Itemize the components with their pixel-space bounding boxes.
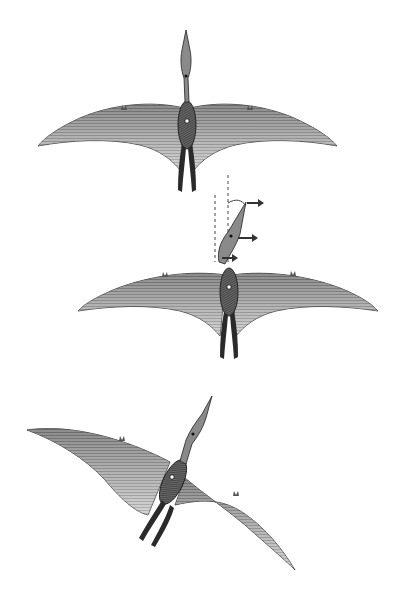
arrow-right-icon <box>247 199 264 207</box>
head-rotation-inset <box>215 175 264 264</box>
wing-right <box>232 273 378 336</box>
head <box>180 396 212 464</box>
pterosaur-pose-2 <box>78 175 378 359</box>
wing-left <box>27 429 170 515</box>
arrow-right-icon <box>238 234 258 242</box>
claw-left <box>162 272 168 277</box>
wing-right <box>190 104 337 170</box>
eye <box>229 234 232 237</box>
body <box>178 101 196 149</box>
wing-right <box>175 478 295 570</box>
eye <box>191 432 194 435</box>
eye <box>184 74 187 77</box>
wing-left <box>38 104 184 170</box>
pterosaur-pose-1 <box>38 30 337 192</box>
rotation-arc <box>228 200 246 206</box>
claw-right <box>233 491 239 496</box>
claw-left <box>119 436 125 441</box>
wing-left <box>78 273 226 336</box>
head <box>181 30 191 102</box>
body <box>220 268 238 316</box>
pterosaur-pose-3 <box>27 396 295 570</box>
illustration-canvas <box>0 0 406 604</box>
claw-right <box>290 271 296 276</box>
